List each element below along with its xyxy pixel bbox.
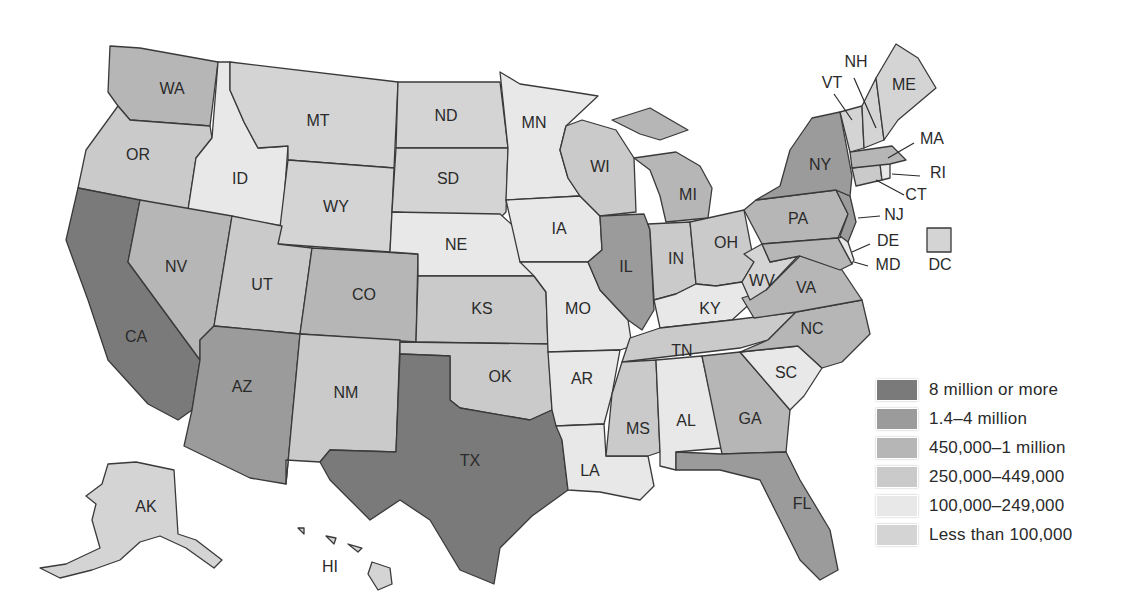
legend-swatch (876, 495, 918, 517)
label-ct: CT (905, 186, 927, 203)
state-ny[interactable] (756, 112, 852, 200)
state-ak[interactable] (40, 462, 222, 578)
label-ak: AK (135, 498, 157, 515)
leader-nj (858, 216, 880, 218)
state-ri[interactable] (880, 164, 890, 180)
legend-item-100k: 100,000–249,000 (876, 491, 1072, 520)
legend-label: 450,000–1 million (929, 438, 1066, 458)
label-wy: WY (323, 198, 349, 215)
label-ca: CA (125, 328, 148, 345)
legend-item-lt100k: Less than 100,000 (876, 520, 1072, 549)
state-fl[interactable] (676, 452, 838, 580)
label-al: AL (676, 412, 696, 429)
label-co: CO (352, 286, 376, 303)
legend-label: 1.4–4 million (929, 409, 1027, 429)
label-id: ID (232, 170, 248, 187)
legend-item-250k: 250,000–449,000 (876, 462, 1072, 491)
label-md: MD (876, 256, 901, 273)
label-sc: SC (775, 364, 797, 381)
label-nj: NJ (884, 206, 904, 223)
label-ky: KY (699, 300, 721, 317)
leader-ri (892, 174, 920, 176)
label-ia: IA (551, 220, 566, 237)
legend-swatch (876, 408, 918, 430)
label-mn: MN (522, 114, 547, 131)
label-nh: NH (844, 53, 867, 70)
label-vt: VT (822, 74, 843, 91)
state-hi[interactable] (298, 528, 392, 590)
label-la: LA (580, 462, 600, 479)
label-ga: GA (738, 410, 761, 427)
legend-swatch (876, 524, 918, 546)
legend: 8 million or more 1.4–4 million 450,000–… (876, 375, 1072, 549)
label-mt: MT (306, 112, 329, 129)
label-pa: PA (788, 210, 808, 227)
label-wa: WA (159, 80, 185, 97)
label-sd: SD (437, 170, 459, 187)
leader-ct (876, 180, 904, 195)
label-ne: NE (445, 236, 467, 253)
legend-label: 8 million or more (929, 380, 1058, 400)
label-ok: OK (488, 368, 511, 385)
label-dc: DC (928, 256, 951, 273)
legend-item-8m: 8 million or more (876, 375, 1072, 404)
label-ms: MS (626, 420, 650, 437)
state-az[interactable] (184, 326, 300, 484)
label-ks: KS (471, 300, 492, 317)
state-dc[interactable] (927, 228, 951, 252)
leader-md (854, 262, 868, 266)
label-il: IL (619, 258, 632, 275)
label-wi: WI (590, 158, 610, 175)
label-ri: RI (930, 164, 946, 181)
label-tx: TX (460, 452, 481, 469)
label-va: VA (796, 279, 816, 296)
label-in: IN (668, 250, 684, 267)
label-nc: NC (800, 320, 823, 337)
label-tn: TN (671, 342, 692, 359)
legend-swatch (876, 466, 918, 488)
label-ma: MA (920, 130, 944, 147)
legend-label: 100,000–249,000 (929, 496, 1064, 516)
legend-label: 250,000–449,000 (929, 467, 1064, 487)
label-ar: AR (571, 370, 593, 387)
state-ar[interactable] (548, 350, 620, 426)
label-nd: ND (434, 107, 457, 124)
label-wv: WV (749, 272, 775, 289)
label-az: AZ (232, 378, 253, 395)
label-or: OR (126, 146, 150, 163)
label-oh: OH (714, 234, 738, 251)
label-hi: HI (322, 558, 338, 575)
legend-swatch (876, 379, 918, 401)
label-me: ME (892, 76, 916, 93)
label-fl: FL (793, 495, 812, 512)
label-ut: UT (251, 276, 273, 293)
legend-swatch (876, 437, 918, 459)
label-nm: NM (334, 384, 359, 401)
legend-item-450k: 450,000–1 million (876, 433, 1072, 462)
label-ny: NY (809, 156, 832, 173)
label-de: DE (877, 232, 899, 249)
legend-item-1-4m: 1.4–4 million (876, 404, 1072, 433)
label-mi: MI (679, 186, 697, 203)
label-mo: MO (565, 300, 591, 317)
legend-label: Less than 100,000 (929, 525, 1072, 545)
label-nv: NV (165, 258, 188, 275)
leader-de (852, 244, 870, 252)
